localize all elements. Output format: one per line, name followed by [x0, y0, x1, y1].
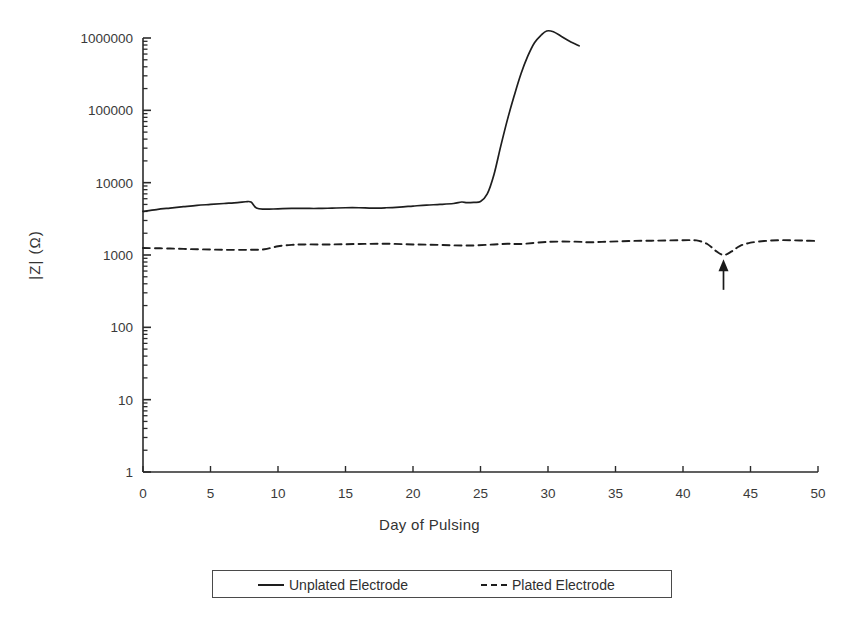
x-tick-label: 45: [743, 486, 758, 501]
x-tick-label: 10: [270, 486, 285, 501]
x-tick-label: 5: [207, 486, 215, 501]
legend-item-unplated-electrode: Unplated Electrode: [258, 571, 408, 599]
annotation-layer: [719, 259, 729, 289]
x-tick-label: 25: [473, 486, 488, 501]
legend-item-plated-electrode: Plated Electrode: [481, 571, 615, 599]
x-tick-label: 35: [608, 486, 623, 501]
solid-line-swatch-icon: [258, 580, 284, 590]
y-tick-label: 1: [125, 465, 133, 480]
y-tick-label: 10: [118, 392, 133, 407]
x-tick-label: 0: [139, 486, 147, 501]
legend-label-plated: Plated Electrode: [512, 577, 615, 593]
x-axis-ticks: [143, 466, 818, 472]
y-tick-label: 100: [110, 320, 133, 335]
series-line-unplated: [143, 31, 579, 212]
y-tick-label: 1000000: [80, 31, 133, 46]
impedance-vs-day-chart: |Z| (Ω) Day of Pulsing 11010010001000010…: [0, 0, 859, 629]
y-tick-label: 100000: [88, 103, 133, 118]
x-tick-label: 30: [540, 486, 555, 501]
y-axis-ticks: [143, 38, 151, 472]
x-tick-label: 20: [405, 486, 420, 501]
axis-lines: [143, 38, 818, 472]
x-tick-label: 40: [675, 486, 690, 501]
dashed-line-swatch-icon: [481, 580, 507, 590]
legend-label-unplated: Unplated Electrode: [289, 577, 408, 593]
x-tick-label: 15: [338, 486, 353, 501]
legend: Unplated Electrode Plated Electrode: [212, 570, 672, 598]
x-tick-label: 50: [810, 486, 825, 501]
data-series-layer: [143, 31, 818, 255]
series-line-plated: [143, 240, 818, 255]
y-tick-label: 10000: [95, 175, 133, 190]
failure-event-arrow: [719, 259, 729, 289]
plot-area: [0, 0, 859, 629]
y-tick-label: 1000: [103, 248, 133, 263]
